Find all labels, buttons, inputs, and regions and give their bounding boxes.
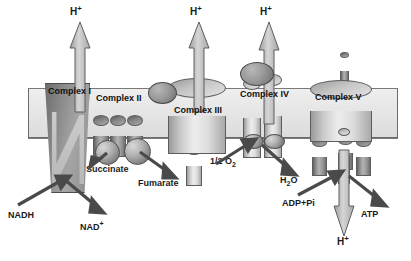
complex-iv-label: Complex IV xyxy=(240,89,289,99)
complex-iii-label: Complex III xyxy=(174,105,222,115)
complex-ii-label: Complex II xyxy=(96,93,142,103)
coq-carrier xyxy=(148,82,177,104)
nad-plus-arrow-head xyxy=(90,199,104,213)
complex-i-label: Complex I xyxy=(48,86,91,96)
etc-diagram-canvas: Complex I Complex II CoQ Complex III Cyt… xyxy=(0,0,411,261)
proton-arrow-complex-i xyxy=(70,22,90,112)
fumarate-arrow-head xyxy=(163,165,176,178)
water-arrow-head xyxy=(282,161,296,175)
adp-pi-arrow-line xyxy=(298,176,334,195)
complex-v-label: Complex V xyxy=(315,92,362,102)
proton-arrow-complex-v xyxy=(334,150,354,236)
proton-arrow-complex-iii xyxy=(189,22,209,112)
cyt-c-carrier xyxy=(240,62,274,86)
nadh-arrow-line xyxy=(18,180,62,205)
oxygen-arrow-line xyxy=(216,144,248,164)
succinate-arrow-head xyxy=(90,157,100,167)
arrow-layer xyxy=(0,0,411,261)
atp-arrow-head xyxy=(372,192,386,206)
oxygen-arrow-head xyxy=(242,139,256,151)
